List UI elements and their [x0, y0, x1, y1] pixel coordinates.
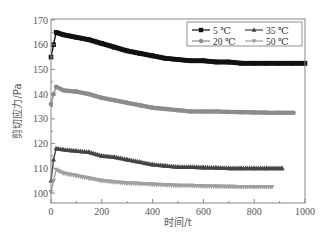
data-point-marker	[291, 110, 296, 115]
x-axis-title: 时间/t	[164, 216, 191, 228]
data-point-marker	[199, 39, 203, 43]
series-20C	[49, 84, 296, 115]
y-tick-label: 170	[33, 15, 48, 26]
plot-area	[48, 30, 307, 194]
legend-label: 50 ℃	[266, 37, 289, 47]
data-point-marker	[199, 28, 203, 32]
x-tick-label: 200	[94, 206, 109, 217]
y-axis-title: 剪切应力/Pa	[11, 83, 23, 138]
x-tick-label: 800	[247, 206, 262, 217]
x-axis: 02004006008001000	[49, 199, 316, 217]
x-tick-label: 0	[49, 206, 54, 217]
shear-stress-chart: 02004006008001000 1001101201301401501601…	[0, 0, 326, 237]
legend: 5 ℃20 ℃35 ℃50 ℃	[187, 22, 302, 47]
series-50C	[48, 168, 274, 195]
y-tick-label: 100	[33, 188, 48, 199]
legend-label: 5 ℃	[213, 26, 231, 36]
y-tick-label: 120	[33, 138, 48, 149]
x-tick-label: 1000	[295, 206, 315, 217]
y-tick-label: 130	[33, 113, 48, 124]
legend-label: 20 ℃	[213, 37, 236, 47]
legend-label: 35 ℃	[266, 26, 289, 36]
y-tick-label: 160	[33, 39, 48, 50]
y-tick-label: 150	[33, 64, 48, 75]
y-tick-label: 140	[33, 89, 48, 100]
x-tick-label: 600	[196, 206, 211, 217]
x-tick-label: 400	[145, 206, 160, 217]
y-tick-label: 110	[33, 163, 48, 174]
data-point-marker	[51, 157, 56, 162]
